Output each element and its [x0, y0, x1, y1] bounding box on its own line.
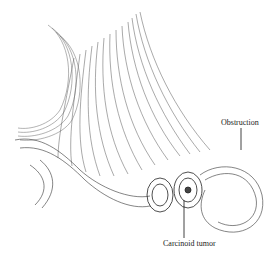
medical-illustration: Obstruction Carcinoid tumor	[0, 0, 274, 257]
intestine-drawing	[0, 0, 274, 257]
obstruction-label: Obstruction	[221, 118, 259, 127]
cross-sections	[147, 172, 202, 212]
intestine-lower	[15, 139, 150, 208]
obstruction-loop	[200, 167, 263, 232]
carcinoid-tumor-label: Carcinoid tumor	[163, 239, 216, 248]
left-loop-lines	[18, 25, 80, 140]
mesentery-fan-lines	[58, 12, 210, 176]
